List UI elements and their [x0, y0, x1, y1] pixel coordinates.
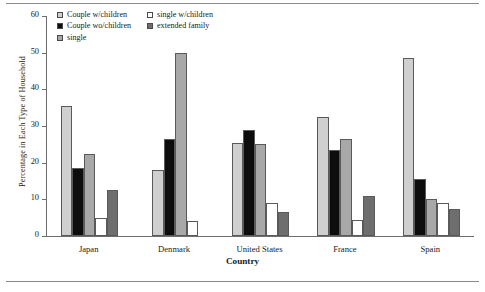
x-axis-tick-label: United States [217, 244, 302, 254]
x-axis-tick-label: Denmark [131, 244, 216, 254]
bar-group [389, 16, 474, 236]
x-axis-spine [46, 236, 474, 237]
bar [61, 106, 73, 236]
bar [187, 221, 199, 236]
figure: Percentage in Each Type of Household Cou… [0, 0, 485, 292]
y-axis-tick-label: 60 [31, 10, 39, 19]
y-axis-tick-mark [42, 236, 46, 237]
figure-top-rule [6, 3, 479, 4]
y-axis-tick-mark [42, 53, 46, 54]
x-axis-tick-label: France [302, 244, 387, 254]
bar [340, 139, 352, 236]
y-axis-tick: 40 [16, 89, 46, 90]
y-axis-tick: 0 [16, 236, 46, 237]
x-axis-tick-label: Japan [46, 244, 131, 254]
bar [84, 154, 96, 237]
figure-bottom-rule [6, 281, 479, 282]
bar [352, 220, 364, 237]
bar [437, 203, 449, 236]
bar [449, 209, 461, 237]
y-axis-tick-label: 0 [35, 230, 39, 239]
y-axis-tick-mark [42, 199, 46, 200]
bar [278, 212, 290, 236]
bar [175, 53, 187, 236]
bar [232, 143, 244, 237]
bar-group [47, 16, 132, 236]
y-axis-tick: 20 [16, 163, 46, 164]
y-axis-tick-mark [42, 126, 46, 127]
x-axis-title: Country [0, 256, 485, 266]
y-axis-tick-label: 40 [31, 83, 39, 92]
bar-group [303, 16, 388, 236]
y-axis-tick-mark [42, 163, 46, 164]
bar-series-container [47, 16, 474, 236]
y-axis-tick: 60 [16, 16, 46, 17]
bar [107, 190, 119, 236]
bar [363, 196, 375, 236]
x-axis-tick-label: Spain [388, 244, 473, 254]
bar [414, 179, 426, 236]
bar [266, 203, 278, 236]
y-axis-tick-label: 20 [31, 157, 39, 166]
y-axis-tick-label: 30 [31, 120, 39, 129]
y-axis-tick-mark [42, 89, 46, 90]
y-axis-tick-label: 10 [31, 193, 39, 202]
y-axis-title: Percentage in Each Type of Household [18, 22, 27, 222]
bar [72, 168, 84, 236]
bar [152, 170, 164, 236]
y-axis-tick: 50 [16, 53, 46, 54]
bar-group [218, 16, 303, 236]
y-axis-tick: 30 [16, 126, 46, 127]
bar [255, 144, 267, 236]
plot-area: 0102030405060 JapanDenmarkUnited StatesF… [46, 16, 474, 236]
y-axis-tick-label: 50 [31, 47, 39, 56]
bar-group [132, 16, 217, 236]
bar [317, 117, 329, 236]
y-axis-tick-mark [42, 16, 46, 17]
bar [95, 218, 107, 236]
bar [403, 58, 415, 236]
bar [426, 199, 438, 236]
bar [164, 139, 176, 236]
bar [329, 150, 341, 236]
bar [243, 130, 255, 236]
y-axis-tick: 10 [16, 199, 46, 200]
